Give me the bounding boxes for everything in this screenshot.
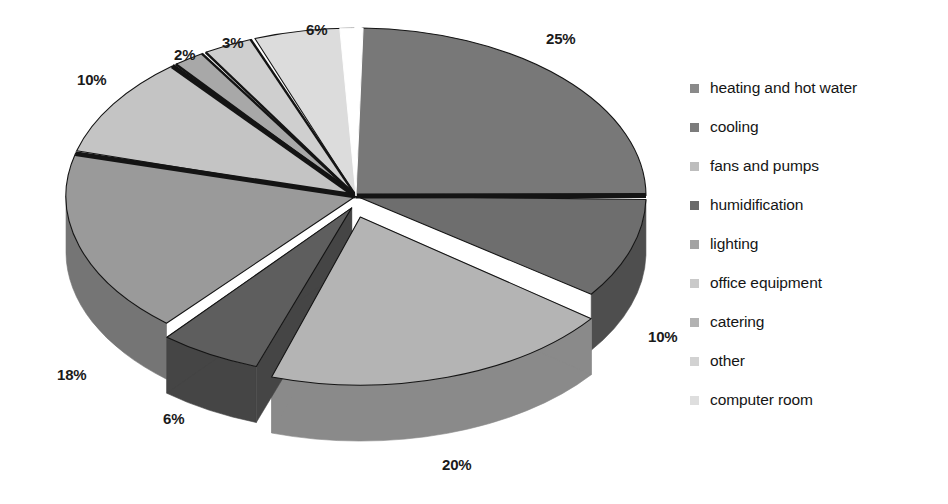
legend-swatch-icon — [690, 357, 699, 366]
legend-item-label: fans and pumps — [710, 157, 819, 175]
legend-swatch-icon — [690, 318, 699, 327]
legend-item-label: lighting — [710, 235, 758, 253]
legend-swatch-icon — [690, 84, 699, 93]
legend-item[interactable]: heating and hot water — [690, 78, 948, 98]
legend-item[interactable]: other — [690, 351, 948, 371]
legend-swatch-icon — [690, 201, 699, 210]
pie-slices-group — [66, 28, 646, 441]
legend-item[interactable]: lighting — [690, 234, 948, 254]
legend-swatch-icon — [690, 240, 699, 249]
pie-slice-percentage-label: 10% — [648, 328, 677, 345]
legend-swatch-icon — [690, 396, 699, 405]
pie-slice-divider — [356, 195, 646, 196]
legend-item-label: humidification — [710, 196, 803, 214]
pie-slice-top[interactable] — [356, 28, 646, 196]
legend-item-label: office equipment — [710, 274, 822, 292]
legend-item-label: computer room — [710, 391, 813, 409]
pie-slice-percentage-label: 6% — [163, 410, 184, 427]
legend-swatch-icon — [690, 162, 699, 171]
pie-slice-percentage-label: 18% — [57, 366, 86, 383]
legend-swatch-icon — [690, 279, 699, 288]
chart-legend: heating and hot water coolingfans and pu… — [690, 78, 948, 429]
pie-slice-percentage-label: 3% — [222, 34, 243, 51]
pie-slice-percentage-label: 20% — [442, 456, 471, 473]
pie-chart-figure: 25%10%20%6%18%10%2%3%6% heating and hot … — [0, 0, 948, 504]
pie-slice-percentage-label: 6% — [306, 21, 327, 38]
pie-slice-percentage-label: 2% — [174, 46, 195, 63]
legend-item[interactable]: office equipment — [690, 273, 948, 293]
pie-slice-percentage-label: 10% — [77, 71, 106, 88]
legend-item[interactable]: fans and pumps — [690, 156, 948, 176]
legend-item[interactable]: catering — [690, 312, 948, 332]
legend-item[interactable]: computer room — [690, 390, 948, 410]
pie-plot-area: 25%10%20%6%18%10%2%3%6% — [0, 0, 690, 504]
legend-item-label: catering — [710, 313, 764, 331]
legend-item-label: heating and hot water — [710, 79, 857, 97]
legend-item[interactable]: humidification — [690, 195, 948, 215]
legend-item[interactable]: cooling — [690, 117, 948, 137]
legend-swatch-icon — [690, 123, 699, 132]
legend-item-label: cooling — [710, 118, 758, 136]
pie-slice-percentage-label: 25% — [546, 30, 575, 47]
legend-item-label: other — [710, 352, 745, 370]
